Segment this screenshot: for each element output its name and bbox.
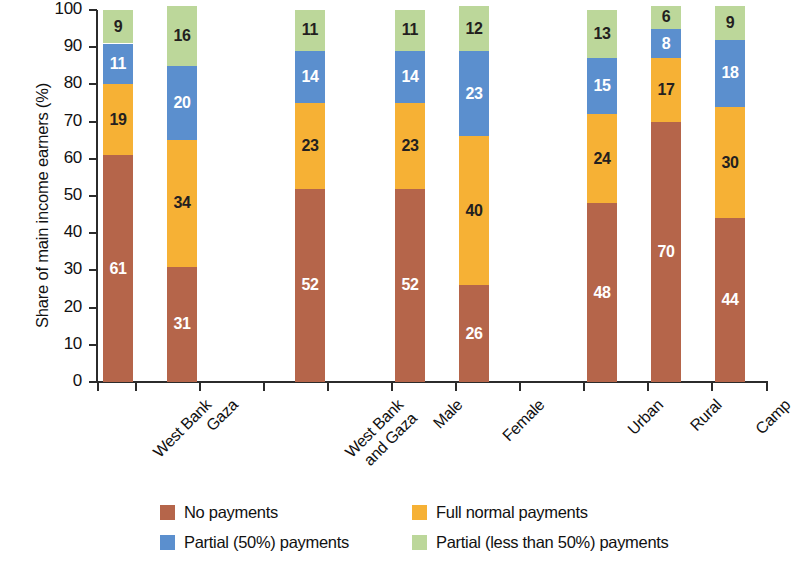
x-axis-tick xyxy=(766,383,768,391)
bar-segment-value: 23 xyxy=(301,138,318,154)
x-axis-tick xyxy=(711,383,713,391)
legend-item[interactable]: No payments xyxy=(160,503,278,522)
x-axis-label-west-bank: West Bank xyxy=(150,396,216,462)
bar-segment: 40 xyxy=(459,136,489,285)
bar-segment-value: 20 xyxy=(173,95,190,111)
bar-male: 52231411 xyxy=(395,10,425,382)
legend-swatch-icon xyxy=(412,535,427,550)
bar-segment: 17 xyxy=(651,58,681,121)
bar-segment-value: 52 xyxy=(401,277,418,293)
bar-segment-value: 23 xyxy=(465,86,482,102)
chart-legend: No paymentsFull normal paymentsPartial (… xyxy=(160,503,770,559)
bar-segment: 26 xyxy=(459,285,489,382)
x-axis-tick xyxy=(199,383,201,391)
bar-segment-value: 15 xyxy=(593,78,610,94)
bar-segment: 23 xyxy=(295,103,325,189)
x-axis-tick xyxy=(583,383,585,391)
bar-segment: 34 xyxy=(167,140,197,266)
bar-segment: 23 xyxy=(459,51,489,137)
legend-item[interactable]: Full normal payments xyxy=(412,503,588,522)
x-axis-tick xyxy=(327,383,329,391)
bar-rural: 701786 xyxy=(651,10,681,382)
bar-segment: 70 xyxy=(651,122,681,382)
x-axis-tick xyxy=(519,383,521,391)
x-axis-tick xyxy=(647,383,649,391)
bar-segment-value: 14 xyxy=(401,69,418,85)
x-axis-tick xyxy=(263,383,265,391)
bar-segment-value: 14 xyxy=(301,69,318,85)
bar-segment: 12 xyxy=(459,6,489,51)
bar-segment-value: 30 xyxy=(721,155,738,171)
bar-segment: 14 xyxy=(295,51,325,103)
bar-segment-value: 24 xyxy=(593,151,610,167)
bar-segment: 30 xyxy=(715,107,745,219)
bar-female: 26402312 xyxy=(459,10,489,382)
x-axis-label-male: Male xyxy=(430,396,467,433)
bar-segment: 9 xyxy=(103,10,133,43)
x-axis-label-female: Female xyxy=(499,396,549,446)
bar-segment: 20 xyxy=(167,66,197,140)
bar-segment: 13 xyxy=(587,10,617,58)
legend-swatch-icon xyxy=(160,535,175,550)
bar-segment: 8 xyxy=(651,29,681,59)
bar-segment: 44 xyxy=(715,218,745,382)
bar-segment-value: 23 xyxy=(401,138,418,154)
x-axis-label-line: Female xyxy=(499,396,549,446)
bar-segment: 16 xyxy=(167,6,197,66)
x-axis-label-urban: Urban xyxy=(624,396,667,439)
bar-segment-value: 9 xyxy=(726,15,735,31)
bar-segment-value: 9 xyxy=(114,19,123,35)
bar-segment-value: 12 xyxy=(465,21,482,37)
bar-segment: 14 xyxy=(395,51,425,103)
bar-segment: 24 xyxy=(587,114,617,203)
x-axis-label-line: Camp xyxy=(752,396,795,439)
bar-segment: 23 xyxy=(395,103,425,189)
bar-segment: 31 xyxy=(167,267,197,382)
x-axis-tick xyxy=(455,383,457,391)
x-axis-tick xyxy=(135,383,137,391)
bar-segment-value: 61 xyxy=(109,261,126,277)
bar-segment: 18 xyxy=(715,40,745,107)
bar-segment: 61 xyxy=(103,155,133,382)
bar-segment-value: 48 xyxy=(593,285,610,301)
bar-segment: 9 xyxy=(715,6,745,39)
x-axis-label-rural: Rural xyxy=(687,396,726,435)
bar-segment-value: 13 xyxy=(593,26,610,42)
bar-urban: 48241513 xyxy=(587,10,617,382)
bar-segment-value: 44 xyxy=(721,292,738,308)
legend-label: Partial (less than 50%) payments xyxy=(436,533,669,552)
legend-label: Partial (50%) payments xyxy=(184,533,349,552)
bar-segment: 19 xyxy=(103,84,133,155)
x-axis-tick xyxy=(97,383,99,391)
bar-segment-value: 40 xyxy=(465,203,482,219)
bar-segment-value: 31 xyxy=(173,316,190,332)
legend-label: Full normal payments xyxy=(436,503,588,522)
bar-segment: 48 xyxy=(587,203,617,382)
bar-segment-value: 52 xyxy=(301,277,318,293)
bar-segment-value: 8 xyxy=(662,36,671,52)
bar-segment-value: 17 xyxy=(657,82,674,98)
legend-item[interactable]: Partial (less than 50%) payments xyxy=(412,533,669,552)
legend-item[interactable]: Partial (50%) payments xyxy=(160,533,349,552)
bar-segment-value: 11 xyxy=(110,56,126,72)
bar-segment: 15 xyxy=(587,58,617,114)
bar-segment-value: 19 xyxy=(109,112,126,128)
bar-segment-value: 70 xyxy=(657,244,674,260)
bar-segment: 11 xyxy=(103,44,133,85)
legend-label: No payments xyxy=(184,503,278,522)
bar-segment-value: 18 xyxy=(721,65,738,81)
x-axis-label-line: Urban xyxy=(624,396,667,439)
legend-swatch-icon xyxy=(412,505,427,520)
plot-area: 6119119313420165223141152231411264023124… xyxy=(0,10,776,382)
bar-segment-value: 11 xyxy=(402,22,418,38)
x-axis-label-line: Male xyxy=(430,396,467,433)
bar-camp: 4430189 xyxy=(715,10,745,382)
bar-west-bank-and-gaza: 52231411 xyxy=(295,10,325,382)
bar-segment-value: 16 xyxy=(173,28,190,44)
legend-swatch-icon xyxy=(160,505,175,520)
x-axis-label-line: Rural xyxy=(687,396,726,435)
bar-segment-value: 6 xyxy=(662,9,671,25)
x-axis-label-line: West Bank xyxy=(150,396,216,462)
bar-segment: 6 xyxy=(651,6,681,28)
